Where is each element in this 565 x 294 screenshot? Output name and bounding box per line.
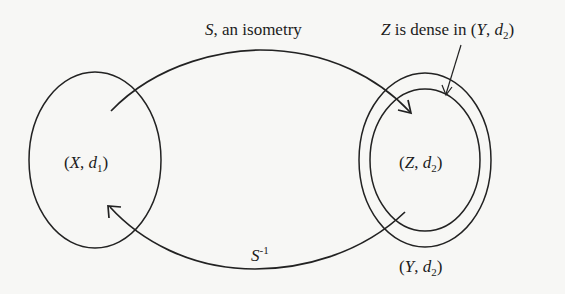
outer-set-label: (Y, d2) [399,257,442,278]
left-set-label: (X, d1) [64,153,108,174]
inner-set-label: (Z, d2) [399,153,442,174]
diagram-canvas [0,0,565,294]
annotation-arrow [446,45,461,94]
isometry-arrow [111,50,410,112]
isometry-label: S, an isometry [205,20,302,40]
inverse-label: S-1 [251,244,269,266]
density-annotation: Z is dense in (Y, d2) [381,20,514,41]
